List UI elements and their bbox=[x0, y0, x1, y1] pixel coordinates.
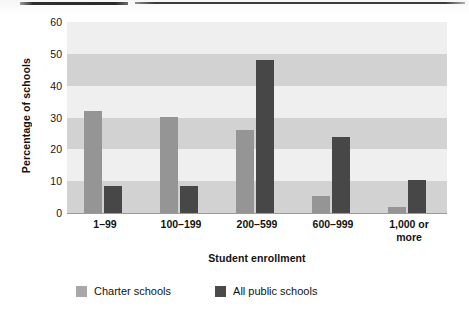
x-axis-line bbox=[67, 213, 447, 214]
y-axis-tick-label: 60 bbox=[6, 17, 62, 27]
x-axis-tick-label: 200–599 bbox=[219, 218, 295, 231]
bar-charter bbox=[312, 196, 330, 214]
bar-charter bbox=[160, 117, 178, 213]
x-axis-tick-label: 600–999 bbox=[295, 218, 371, 231]
bar-public bbox=[332, 137, 350, 213]
y-axis-tick-label: 0 bbox=[6, 208, 62, 218]
legend-label-charter: Charter schools bbox=[94, 285, 171, 297]
bar-chart-figure: Percentage of schools 0102030405060 1–99… bbox=[0, 0, 469, 329]
x-axis-tick-label-line: 100–199 bbox=[143, 218, 219, 231]
x-axis-tick-label-line: more bbox=[371, 231, 447, 244]
background-band bbox=[67, 22, 447, 54]
y-axis-tick-label: 50 bbox=[6, 49, 62, 59]
y-axis-tick-label: 10 bbox=[6, 176, 62, 186]
y-axis-tick-label: 30 bbox=[6, 113, 62, 123]
bar-charter bbox=[236, 130, 254, 213]
x-axis-tick-label-line: 1,000 or bbox=[371, 218, 447, 231]
legend-label-public: All public schools bbox=[233, 285, 317, 297]
x-axis-tick-labels: 1–99100–199200–599600–9991,000 ormore bbox=[67, 218, 447, 252]
legend-swatch-public-icon bbox=[215, 286, 226, 297]
bar-public bbox=[104, 186, 122, 213]
bar-public bbox=[256, 60, 274, 213]
x-axis-tick-label-line: 600–999 bbox=[295, 218, 371, 231]
legend-swatch-charter-icon bbox=[76, 286, 87, 297]
x-axis-tick-label-line: 1–99 bbox=[67, 218, 143, 231]
legend-item-charter: Charter schools bbox=[76, 285, 171, 297]
x-axis-tick-label-line: 200–599 bbox=[219, 218, 295, 231]
bar-public bbox=[408, 180, 426, 213]
bar-charter bbox=[84, 111, 102, 213]
x-axis-title: Student enrollment bbox=[67, 252, 447, 264]
plot-area bbox=[67, 22, 447, 213]
legend-item-public: All public schools bbox=[215, 285, 317, 297]
bar-public bbox=[180, 186, 198, 213]
y-axis-tick-label: 20 bbox=[6, 144, 62, 154]
y-axis-tick-label: 40 bbox=[6, 81, 62, 91]
x-axis-tick-label: 1–99 bbox=[67, 218, 143, 231]
chart-legend: Charter schools All public schools bbox=[67, 283, 447, 299]
y-axis-tick-labels: 0102030405060 bbox=[0, 0, 62, 329]
x-axis-tick-label: 1,000 ormore bbox=[371, 218, 447, 244]
x-axis-tick-label: 100–199 bbox=[143, 218, 219, 231]
